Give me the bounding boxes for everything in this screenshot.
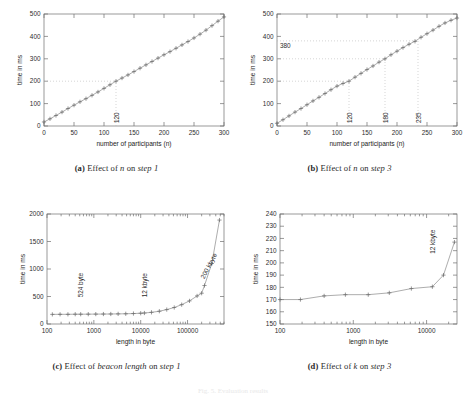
caption-b-pre: Effect of [320, 163, 351, 173]
svg-text:250: 250 [422, 129, 433, 136]
chart-c: 0500100015002000100100010000100000524 by… [0, 198, 233, 356]
svg-text:12 kbyte: 12 kbyte [429, 229, 437, 254]
svg-text:100000: 100000 [177, 327, 199, 334]
svg-text:100: 100 [99, 129, 110, 136]
svg-text:1500: 1500 [29, 238, 44, 245]
svg-text:160: 160 [266, 308, 277, 315]
svg-text:120: 120 [113, 112, 120, 123]
caption-c: (c) Effect of beacon length on step 1 [0, 361, 233, 371]
svg-text:100: 100 [275, 327, 286, 334]
svg-text:100: 100 [30, 100, 41, 107]
svg-text:230: 230 [266, 222, 277, 229]
svg-text:300: 300 [30, 55, 41, 62]
svg-text:240: 240 [266, 210, 277, 217]
panel-d: 1501601701801902002102202302401001000100… [233, 190, 466, 396]
svg-text:300: 300 [219, 129, 230, 136]
caption-a: (a) Effect of n on step 1 [0, 163, 233, 173]
caption-b-var2: step 3 [371, 163, 392, 173]
svg-text:2000: 2000 [29, 210, 44, 217]
caption-d-pre: Effect of [321, 361, 352, 371]
chart-b: 0100200300400500050100150200250300120180… [233, 0, 466, 158]
caption-d-var2: step 3 [371, 361, 392, 371]
svg-text:500: 500 [30, 10, 41, 17]
plot-b: 0100200300400500050100150200250300120180… [233, 0, 466, 158]
svg-text:120: 120 [346, 112, 353, 123]
svg-text:180: 180 [382, 112, 389, 123]
svg-text:200: 200 [263, 77, 274, 84]
plot-a: 0100200300400500050100150200250300120num… [0, 0, 233, 158]
svg-text:400: 400 [263, 33, 274, 40]
svg-text:1000: 1000 [346, 327, 361, 334]
panel-c: 0500100015002000100100010000100000524 by… [0, 190, 233, 396]
svg-text:180: 180 [266, 284, 277, 291]
caption-b-var1: n [353, 163, 357, 173]
svg-text:10000: 10000 [132, 327, 150, 334]
figure-bottom-note: Fig. 5. Evaluation results [0, 387, 466, 395]
svg-text:170: 170 [266, 296, 277, 303]
svg-text:time in ms: time in ms [16, 54, 23, 85]
svg-text:380: 380 [280, 42, 291, 49]
svg-text:1000: 1000 [87, 327, 102, 334]
svg-text:200: 200 [392, 129, 403, 136]
svg-text:200: 200 [159, 129, 170, 136]
svg-text:150: 150 [362, 129, 373, 136]
svg-text:300: 300 [263, 55, 274, 62]
svg-text:time in ms: time in ms [249, 54, 256, 85]
svg-text:100: 100 [42, 327, 53, 334]
svg-text:length in byte: length in byte [116, 338, 156, 346]
plot-c: 0500100015002000100100010000100000524 by… [0, 198, 233, 356]
caption-c-label: (c) [53, 361, 63, 371]
caption-a-pre: Effect of [87, 163, 118, 173]
caption-b: (b) Effect of n on step 3 [233, 163, 466, 173]
svg-text:200: 200 [266, 259, 277, 266]
chart-a: 0100200300400500050100150200250300120num… [0, 0, 233, 158]
svg-text:time in ms: time in ms [19, 253, 26, 284]
caption-a-var1: n [120, 163, 124, 173]
svg-text:500: 500 [33, 293, 44, 300]
plot-d: 1501601701801902002102202302401001000100… [233, 198, 466, 356]
svg-text:number of participants (n): number of participants (n) [96, 140, 171, 148]
svg-text:250: 250 [189, 129, 200, 136]
svg-text:100: 100 [332, 129, 343, 136]
chart-d: 1501601701801902002102202302401001000100… [233, 198, 466, 356]
svg-text:220: 220 [266, 235, 277, 242]
svg-text:12 kbyte: 12 kbyte [141, 273, 149, 298]
svg-text:150: 150 [129, 129, 140, 136]
svg-text:200: 200 [30, 77, 41, 84]
caption-d-var1: k [354, 361, 358, 371]
caption-c-var2: step 1 [160, 361, 181, 371]
caption-c-pre: Effect of [64, 361, 95, 371]
caption-d-label: (d) [308, 361, 319, 371]
caption-b-mid: on [360, 163, 369, 173]
svg-text:50: 50 [70, 129, 78, 136]
caption-a-mid: on [127, 163, 136, 173]
svg-text:50: 50 [303, 129, 311, 136]
caption-d: (d) Effect of k on step 3 [233, 361, 466, 371]
svg-text:190: 190 [266, 271, 277, 278]
figure-grid: 0100200300400500050100150200250300120num… [0, 0, 466, 396]
caption-b-label: (b) [307, 163, 318, 173]
svg-text:300: 300 [452, 129, 463, 136]
caption-a-var2: step 1 [138, 163, 159, 173]
svg-text:length in byte: length in byte [349, 338, 389, 346]
svg-text:0: 0 [275, 129, 279, 136]
caption-c-mid: on [149, 361, 158, 371]
svg-text:0: 0 [42, 129, 46, 136]
caption-a-label: (a) [75, 163, 85, 173]
svg-text:200 kbyte: 200 kbyte [199, 252, 219, 281]
svg-text:235: 235 [415, 112, 422, 123]
svg-text:number of participants (n): number of participants (n) [329, 140, 404, 148]
svg-text:1000: 1000 [29, 265, 44, 272]
caption-d-mid: on [360, 361, 369, 371]
svg-text:time in ms: time in ms [252, 253, 259, 284]
svg-text:0: 0 [37, 122, 41, 129]
svg-text:10000: 10000 [418, 327, 436, 334]
panel-a: 0100200300400500050100150200250300120num… [0, 0, 233, 190]
svg-text:0: 0 [270, 122, 274, 129]
svg-text:100: 100 [263, 100, 274, 107]
svg-text:500: 500 [263, 10, 274, 17]
svg-text:400: 400 [30, 33, 41, 40]
panel-b: 0100200300400500050100150200250300120180… [233, 0, 466, 190]
svg-text:210: 210 [266, 247, 277, 254]
caption-c-var1: beacon length [97, 361, 146, 371]
